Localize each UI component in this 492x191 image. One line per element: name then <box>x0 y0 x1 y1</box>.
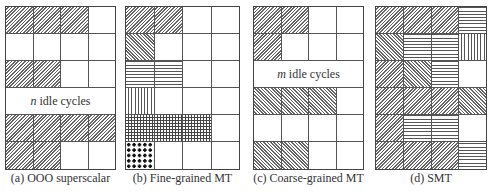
empty-issue-slot <box>337 142 364 169</box>
thread-e-slot <box>183 115 212 141</box>
thread-b-slot <box>282 88 310 114</box>
thread-a-slot <box>404 142 432 169</box>
thread-e-slot <box>155 115 184 141</box>
caption-coarse-grained-mt: (c) Coarse-grained MT <box>253 171 364 186</box>
empty-issue-slot <box>89 142 116 169</box>
caption-ooo-superscalar: (a) OOO superscalar <box>5 171 116 186</box>
thread-a-slot <box>376 7 404 33</box>
thread-b-slot <box>126 34 155 60</box>
thread-c-slot <box>404 115 432 141</box>
cycle-row <box>376 34 486 61</box>
issue-slot-grid: midle cycles <box>253 6 364 170</box>
cycle-row <box>126 142 239 169</box>
thread-c-slot <box>155 61 184 87</box>
issue-slot-grid: nidle cycles <box>5 6 116 170</box>
panel-fine-grained-mt <box>125 6 240 170</box>
thread-a-slot <box>34 7 62 33</box>
empty-issue-slot <box>212 142 240 169</box>
cycle-row <box>126 34 239 61</box>
thread-d-slot <box>459 34 486 60</box>
empty-issue-slot <box>212 7 240 33</box>
empty-issue-slot <box>155 142 184 169</box>
thread-a-slot <box>376 88 404 114</box>
cycle-row <box>126 115 239 142</box>
cycle-row <box>6 142 115 169</box>
thread-a-slot <box>432 88 460 114</box>
thread-b-slot <box>376 34 404 60</box>
empty-issue-slot <box>459 61 486 87</box>
cycle-row <box>126 7 239 34</box>
cycle-row <box>6 115 115 142</box>
idle-label: idle cycles <box>40 94 91 109</box>
thread-a-slot <box>376 115 404 141</box>
cycle-row <box>376 142 486 169</box>
thread-a-slot <box>432 7 460 33</box>
cycle-row <box>376 61 486 88</box>
caption-smt: (d) SMT <box>375 171 487 186</box>
thread-a-slot <box>282 7 310 33</box>
empty-issue-slot <box>61 142 89 169</box>
thread-b-slot <box>404 61 432 87</box>
empty-issue-slot <box>254 115 282 141</box>
empty-issue-slot <box>337 7 364 33</box>
thread-a-slot <box>34 115 62 141</box>
empty-issue-slot <box>89 61 116 87</box>
thread-c-slot <box>432 34 460 60</box>
empty-issue-slot <box>212 34 240 60</box>
empty-issue-slot <box>212 61 240 87</box>
cycle-row <box>376 7 486 34</box>
thread-a-slot <box>126 7 155 33</box>
empty-issue-slot <box>309 115 337 141</box>
issue-slot-grid <box>125 6 240 170</box>
empty-issue-slot <box>212 115 240 141</box>
empty-issue-slot <box>34 34 62 60</box>
thread-a-slot <box>376 142 404 169</box>
empty-issue-slot <box>61 61 89 87</box>
thread-a-slot <box>61 7 89 33</box>
thread-a-slot <box>254 7 282 33</box>
thread-f-slot <box>126 142 155 169</box>
thread-c-slot <box>432 115 460 141</box>
thread-b-slot <box>254 142 282 169</box>
empty-issue-slot <box>337 34 364 60</box>
empty-issue-slot <box>183 61 212 87</box>
thread-b-slot <box>459 88 486 114</box>
empty-issue-slot <box>337 88 364 114</box>
cycle-row <box>254 34 363 61</box>
empty-issue-slot <box>282 34 310 60</box>
idle-cycles-band: nidle cycles <box>6 88 115 115</box>
empty-issue-slot <box>282 115 310 141</box>
thread-b-slot <box>254 88 282 114</box>
empty-issue-slot <box>459 115 486 141</box>
thread-a-slot <box>254 34 282 60</box>
caption-fine-grained-mt: (b) Fine-grained MT <box>125 171 240 186</box>
empty-issue-slot <box>309 7 337 33</box>
cycle-row <box>254 142 363 169</box>
thread-a-slot <box>6 115 34 141</box>
cycle-row <box>6 7 115 34</box>
idle-count-variable: m <box>277 67 286 82</box>
thread-b-slot <box>282 142 310 169</box>
empty-issue-slot <box>155 34 184 60</box>
idle-label: idle cycles <box>289 67 340 82</box>
cycle-row <box>254 115 363 142</box>
empty-issue-slot <box>6 34 34 60</box>
thread-a-slot <box>404 88 432 114</box>
cycle-row <box>6 61 115 88</box>
thread-e-slot <box>126 115 155 141</box>
empty-issue-slot <box>309 142 337 169</box>
thread-d-slot <box>126 88 155 114</box>
thread-c-slot <box>432 61 460 87</box>
issue-slot-grid <box>375 6 487 170</box>
cycle-row <box>126 88 239 115</box>
empty-issue-slot <box>183 88 212 114</box>
cycle-row <box>126 61 239 88</box>
thread-c-slot <box>126 61 155 87</box>
cycle-row <box>6 34 115 61</box>
empty-issue-slot <box>183 34 212 60</box>
empty-issue-slot <box>89 7 116 33</box>
panel-ooo-superscalar: nidle cycles <box>5 6 116 170</box>
thread-a-slot <box>34 142 62 169</box>
thread-c-slot <box>404 34 432 60</box>
cycle-row <box>376 88 486 115</box>
